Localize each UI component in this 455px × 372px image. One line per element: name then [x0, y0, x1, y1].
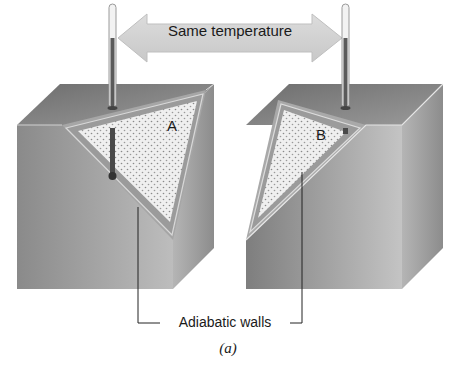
- system-b-cube: [246, 84, 443, 289]
- adiabatic-walls-label: Adiabatic walls: [160, 314, 290, 330]
- same-temperature-label: Same temperature: [130, 22, 330, 39]
- system-a-cube: [17, 84, 214, 289]
- system-a-label: A: [167, 117, 177, 134]
- system-b-label: B: [316, 126, 326, 143]
- figure-caption: (a): [208, 340, 248, 357]
